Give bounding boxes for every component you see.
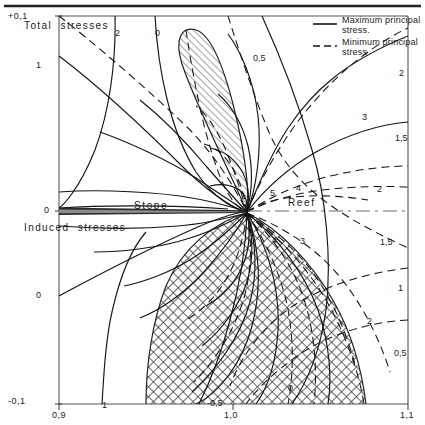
contour-label: 0,5 bbox=[253, 53, 266, 63]
legend-label-min-line2: stress bbox=[342, 47, 367, 57]
contour-label: 3 bbox=[300, 236, 305, 246]
contour-label: 1 bbox=[36, 60, 41, 70]
legend-label-max-line1: Maximum principal bbox=[342, 15, 420, 25]
contour-label: 2 bbox=[399, 68, 404, 78]
legend-swatch-dashed bbox=[312, 41, 338, 51]
contour-label: 1 bbox=[398, 283, 403, 293]
contour-label: 0 bbox=[155, 28, 160, 38]
x-axis-tick-mid: 1,0 bbox=[224, 410, 238, 420]
stress-contour-figure: +0,1 0 -0,1 0,9 1,0 1,1 Total stresses I… bbox=[0, 0, 425, 425]
contour-label: 4 bbox=[296, 183, 301, 193]
feature-label-stope: Stope bbox=[134, 200, 168, 211]
tension-lobe-upper bbox=[179, 29, 248, 212]
x-axis-tick-right: 1,1 bbox=[400, 410, 414, 420]
contour-label: 2 bbox=[115, 28, 120, 38]
contour-label: 0 bbox=[288, 383, 293, 393]
feature-label-reef: Reef bbox=[288, 197, 316, 208]
contour-label: 1,5 bbox=[380, 237, 393, 247]
contour-label: 0,5 bbox=[394, 348, 407, 358]
legend-label-max-line2: stress. bbox=[342, 25, 370, 35]
contour-label: 3 bbox=[362, 112, 367, 122]
y-axis-tick-mid: 0 bbox=[44, 205, 50, 215]
contour-label: 2 bbox=[377, 184, 382, 194]
region-label-induced-stresses: Induced stresses bbox=[24, 222, 126, 233]
contour-label: 1 bbox=[102, 400, 107, 410]
contour-label: -0,5 bbox=[207, 398, 223, 408]
contour-label: 1,5 bbox=[395, 133, 408, 143]
region-label-total-stresses: Total stresses bbox=[24, 20, 109, 31]
figure-canvas bbox=[0, 0, 425, 425]
contour-label: 0 bbox=[36, 290, 41, 300]
contour-label: 4 bbox=[272, 235, 277, 245]
contour-label: 5 bbox=[270, 188, 275, 198]
contour-label: 2 bbox=[367, 316, 372, 326]
y-axis-tick-bottom: -0,1 bbox=[8, 396, 26, 406]
legend-label-min-line1: Minimum principal bbox=[342, 37, 418, 47]
x-axis-tick-left: 0,9 bbox=[52, 410, 66, 420]
legend-swatch-solid bbox=[312, 19, 338, 29]
